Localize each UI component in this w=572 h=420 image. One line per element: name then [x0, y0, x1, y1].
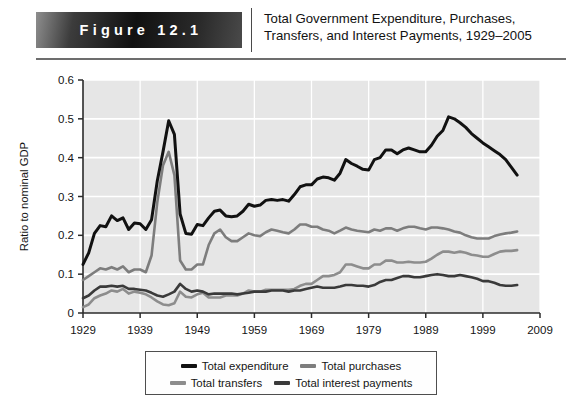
x-axis-tick-labels: 192919391949195919691979198919992009 — [70, 324, 553, 336]
figure-header: Figure 12.1 Total Government Expenditure… — [0, 0, 572, 62]
header-rule — [36, 58, 566, 60]
svg-text:2009: 2009 — [527, 324, 553, 336]
svg-text:1969: 1969 — [299, 324, 325, 336]
legend-swatch-icon-total-expenditure — [181, 364, 197, 368]
legend-item-total-expenditure: Total expenditure — [181, 360, 289, 372]
svg-text:1959: 1959 — [242, 324, 268, 336]
svg-text:1939: 1939 — [127, 324, 153, 336]
figure-number-badge: Figure 12.1 — [36, 12, 242, 48]
svg-text:1949: 1949 — [184, 324, 210, 336]
legend-label-total-interest-payments: Total interest payments — [295, 377, 412, 389]
legend-label-total-expenditure: Total expenditure — [202, 360, 289, 372]
svg-text:0: 0 — [68, 307, 74, 319]
header-divider — [251, 8, 252, 52]
y-axis-tick-labels: 00.10.20.30.40.50.6 — [58, 74, 75, 319]
legend-label-total-purchases: Total purchases — [321, 360, 401, 372]
legend-row-1: Total expenditure Total purchases — [152, 358, 430, 374]
legend-swatch-icon-total-interest-payments — [274, 381, 290, 385]
svg-text:0.4: 0.4 — [58, 152, 75, 164]
chart-legend: Total expenditure Total purchases Total … — [145, 351, 437, 395]
svg-text:0.5: 0.5 — [58, 113, 74, 125]
svg-text:1929: 1929 — [70, 324, 96, 336]
legend-item-total-purchases: Total purchases — [300, 360, 401, 372]
svg-text:Ratio to nominal GDP: Ratio to nominal GDP — [18, 142, 30, 251]
svg-text:0.1: 0.1 — [58, 268, 74, 280]
svg-text:1979: 1979 — [356, 324, 382, 336]
legend-label-total-transfers: Total transfers — [191, 377, 263, 389]
svg-text:1999: 1999 — [470, 324, 496, 336]
y-axis-title: Ratio to nominal GDP — [18, 142, 30, 251]
svg-text:1989: 1989 — [413, 324, 439, 336]
svg-text:0.6: 0.6 — [58, 74, 74, 86]
legend-item-total-interest-payments: Total interest payments — [274, 377, 412, 389]
figure-title: Total Government Expenditure, Purchases,… — [264, 10, 564, 44]
legend-swatch-icon-total-transfers — [170, 381, 186, 385]
figure-number-label: Figure 12.1 — [76, 22, 203, 38]
legend-item-total-transfers: Total transfers — [170, 377, 263, 389]
svg-text:0.3: 0.3 — [58, 191, 74, 203]
svg-text:0.2: 0.2 — [58, 229, 74, 241]
legend-row-2: Total transfers Total interest payments — [152, 375, 430, 391]
legend-swatch-icon-total-purchases — [300, 364, 316, 368]
